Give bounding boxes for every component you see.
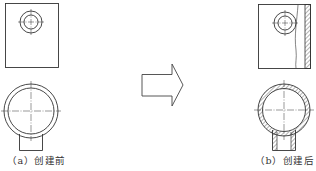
break-line bbox=[295, 5, 298, 68]
diagram-canvas bbox=[0, 0, 316, 171]
block-arrow-right-icon bbox=[142, 64, 183, 106]
before-front-view bbox=[1, 81, 61, 151]
before-caption: （a）创建前 bbox=[7, 153, 66, 167]
before-top-view bbox=[6, 4, 59, 68]
after-hatched-wall bbox=[305, 5, 311, 69]
after-caption: （b）创建后 bbox=[255, 153, 314, 167]
before-rect bbox=[6, 4, 59, 68]
after-top-view bbox=[259, 5, 311, 69]
after-rect bbox=[259, 5, 311, 69]
after-front-view bbox=[254, 80, 314, 151]
